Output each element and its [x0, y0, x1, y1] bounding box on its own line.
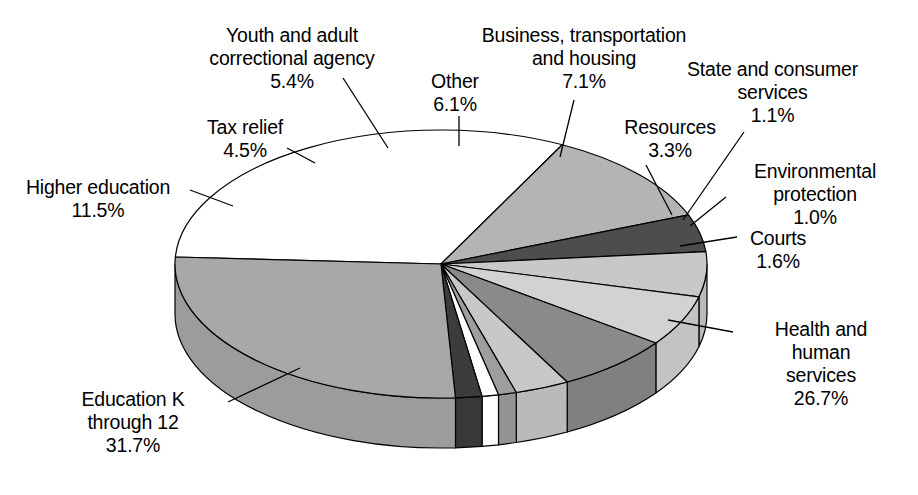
pie-label-text: through 12 [38, 411, 228, 434]
pie-label-tax-relief: Tax relief4.5% [175, 116, 315, 162]
pie-label-text: Education K [38, 388, 228, 411]
pie-label-text: Health and [736, 318, 906, 341]
pie-label-text: State and consumer [660, 58, 885, 81]
pie-label-state-and-consumer-services: State and consumerservices1.1% [660, 58, 885, 127]
pie-top-slices [175, 130, 707, 398]
pie-label-text: services [660, 81, 885, 104]
pie-label-text: Courts [718, 227, 838, 250]
pie-label-environmental-protection: Environmentalprotection1.0% [720, 160, 910, 229]
pie-label-value: 4.5% [175, 139, 315, 162]
pie-label-education-k-through-12: Education Kthrough 1231.7% [38, 388, 228, 457]
pie-label-text: protection [720, 183, 910, 206]
pie-label-value: 1.6% [718, 250, 838, 273]
pie-slice-side [482, 395, 498, 447]
pie-label-youth-and-adult-correctional-agency: Youth and adultcorrectional agency5.4% [182, 24, 402, 93]
pie-label-text: services [736, 364, 906, 387]
pie-label-value: 3.3% [600, 139, 740, 162]
pie-slice-side [498, 393, 516, 445]
pie-label-value: 6.1% [400, 93, 510, 116]
pie-label-text: Environmental [720, 160, 910, 183]
pie-label-value: 5.4% [182, 70, 402, 93]
pie-label-higher-education: Higher education11.5% [8, 176, 188, 222]
pie-slice-side [455, 396, 482, 447]
pie-label-text: correctional agency [182, 47, 402, 70]
pie-label-value: 26.7% [736, 387, 906, 410]
pie-chart-page: Education Kthrough 1231.7%Higher educati… [0, 0, 918, 495]
pie-label-value: 31.7% [38, 434, 228, 457]
pie-label-text: human [736, 341, 906, 364]
pie-label-value: 1.1% [660, 104, 885, 127]
pie-label-health-and-human-services: Health andhumanservices26.7% [736, 318, 906, 410]
pie-label-text: Higher education [8, 176, 188, 199]
pie-label-value: 11.5% [8, 199, 188, 222]
pie-label-courts: Courts1.6% [718, 227, 838, 273]
pie-label-text: Youth and adult [182, 24, 402, 47]
pie-label-value: 1.0% [720, 206, 910, 229]
pie-label-text: Business, transportation [448, 24, 720, 47]
pie-label-text: Tax relief [175, 116, 315, 139]
